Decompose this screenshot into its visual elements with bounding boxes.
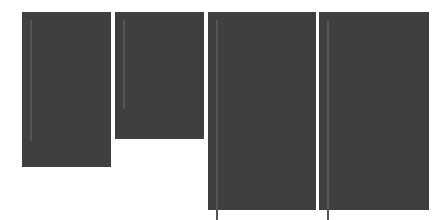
glyph-r-8x15: [30, 20, 32, 141]
glyph-r-8x11: [123, 20, 125, 109]
glyph-r-10x20: [216, 20, 218, 220]
glyph-r-10x20-b: [327, 20, 329, 220]
glyph-frame-3: [208, 12, 316, 210]
glyph-frame-1: [22, 12, 111, 167]
glyph-frame-2: [115, 12, 204, 139]
glyph-frame-4: [319, 12, 429, 210]
